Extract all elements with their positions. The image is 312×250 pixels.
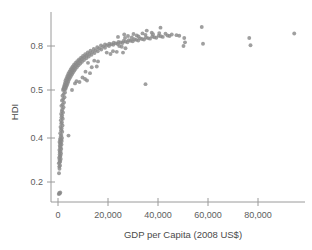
data-point bbox=[95, 45, 99, 49]
data-point bbox=[183, 40, 187, 44]
data-point bbox=[145, 29, 149, 33]
data-point bbox=[249, 43, 253, 47]
y-tick-label: 0.2 bbox=[30, 177, 43, 187]
data-point bbox=[292, 32, 296, 36]
data-point bbox=[164, 32, 168, 36]
y-axis-group: 0.20.40.50.8 bbox=[30, 12, 55, 202]
data-point bbox=[70, 88, 74, 92]
data-point bbox=[96, 59, 100, 63]
data-point bbox=[120, 45, 124, 49]
x-axis-group: 020,00040,00060,00080,000 bbox=[51, 198, 305, 220]
data-point bbox=[151, 32, 155, 36]
y-tick-label: 0.8 bbox=[30, 41, 43, 51]
data-point bbox=[123, 36, 127, 40]
data-point bbox=[137, 35, 141, 39]
x-axis-ticks: 020,00040,00060,00080,000 bbox=[55, 198, 271, 220]
data-point bbox=[177, 34, 181, 38]
data-point bbox=[58, 191, 62, 195]
data-point bbox=[105, 51, 109, 55]
data-point bbox=[122, 33, 126, 37]
x-axis-title: GDP per Capita (2008 US$) bbox=[124, 229, 242, 240]
data-point bbox=[112, 41, 116, 45]
data-point bbox=[182, 44, 186, 48]
data-point bbox=[92, 59, 96, 63]
x-tick-label: 60,000 bbox=[194, 210, 222, 220]
data-point bbox=[84, 70, 88, 74]
data-point bbox=[99, 43, 103, 47]
data-point bbox=[78, 80, 82, 84]
data-points-layer bbox=[57, 25, 296, 196]
data-point bbox=[117, 40, 121, 44]
data-point bbox=[67, 134, 71, 138]
data-point bbox=[103, 43, 107, 47]
chart-canvas: 0.20.40.50.8 020,00040,00060,00080,000 G… bbox=[0, 0, 312, 250]
data-point bbox=[157, 31, 161, 35]
data-point bbox=[200, 25, 204, 29]
y-tick-label: 0.4 bbox=[30, 133, 43, 143]
y-axis-title: HDI bbox=[9, 104, 20, 120]
data-point bbox=[130, 36, 134, 40]
data-point bbox=[107, 42, 111, 46]
x-tick-label: 40,000 bbox=[144, 210, 172, 220]
x-tick-label: 80,000 bbox=[244, 210, 272, 220]
data-point bbox=[116, 35, 120, 39]
scatter-chart-figure: 0.20.40.50.8 020,00040,00060,00080,000 G… bbox=[0, 0, 312, 250]
data-point bbox=[201, 42, 205, 46]
data-point bbox=[144, 82, 148, 86]
data-point bbox=[90, 65, 94, 69]
data-point bbox=[88, 71, 92, 75]
data-point bbox=[95, 65, 99, 69]
data-point bbox=[144, 33, 148, 37]
data-point bbox=[121, 51, 125, 55]
data-point bbox=[109, 52, 113, 56]
x-tick-label: 0 bbox=[55, 210, 60, 220]
data-point bbox=[247, 36, 251, 40]
data-point bbox=[127, 38, 131, 42]
data-point bbox=[115, 50, 119, 54]
data-point bbox=[57, 171, 61, 175]
data-point bbox=[86, 61, 90, 65]
data-point bbox=[182, 36, 186, 40]
data-point bbox=[85, 79, 89, 83]
data-point bbox=[159, 26, 163, 30]
data-point bbox=[92, 47, 96, 51]
data-point bbox=[170, 33, 174, 37]
y-tick-label: 0.5 bbox=[30, 85, 43, 95]
x-tick-label: 20,000 bbox=[94, 210, 122, 220]
data-point bbox=[124, 46, 128, 50]
